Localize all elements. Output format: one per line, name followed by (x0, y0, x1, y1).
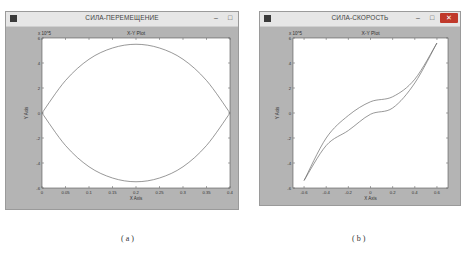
chart: X-Y Plotx 10^5-0.6-0.4-0.200.20.40.6-6-4… (275, 30, 448, 201)
x-tick-label: 0.25 (155, 190, 164, 195)
caption-b: ( b ) (352, 234, 365, 243)
x-tick-label: 0.15 (108, 190, 117, 195)
y-tick-label: 6 (289, 36, 292, 41)
title-bar[interactable]: СИЛА-СКОРОСТЬ – □ ✕ (260, 12, 460, 27)
caption-a: ( a ) (121, 234, 134, 243)
figure-window-b: СИЛА-СКОРОСТЬ – □ ✕ X-Y Plotx 10^5-0.6-0… (259, 11, 461, 206)
y-tick-label: 2 (289, 86, 292, 91)
y-tick-label: -6 (287, 186, 291, 191)
y-tick-label: -4 (287, 161, 291, 166)
minimize-button[interactable]: – (210, 13, 222, 23)
y-tick-label: 4 (38, 61, 41, 66)
y-tick-label: 0 (38, 111, 41, 116)
minimize-button[interactable]: – (412, 13, 424, 23)
y-tick-label: 2 (38, 86, 41, 91)
x-tick-label: -0.2 (345, 190, 353, 195)
x-tick-label: 0.6 (434, 190, 440, 195)
x-tick-label: 0.4 (412, 190, 418, 195)
close-button[interactable]: ✕ (440, 13, 458, 23)
x-tick-label: 0.05 (61, 190, 70, 195)
x-tick-label: 0.35 (202, 190, 211, 195)
x-axis-label: X Axis (130, 196, 143, 201)
title-bar[interactable]: СИЛА-ПЕРЕМЕЩЕНИЕ – □ (6, 12, 238, 27)
y-tick-label: 6 (38, 36, 41, 41)
x-tick-label: 0.2 (133, 190, 139, 195)
y-tick-label: 4 (289, 61, 292, 66)
x-tick-label: 0.1 (86, 190, 92, 195)
x-tick-label: 0.3 (180, 190, 186, 195)
chart-title: X-Y Plot (127, 30, 146, 36)
chart: X-Y Plotx 10^500.050.10.150.20.250.30.35… (24, 30, 234, 201)
y-tick-label: -2 (36, 136, 40, 141)
window-title: СИЛА-ПЕРЕМЕЩЕНИЕ (6, 14, 238, 21)
maximize-button[interactable]: □ (426, 13, 438, 23)
y-multiplier: x 10^5 (289, 31, 303, 36)
x-tick-label: 0.4 (227, 190, 233, 195)
x-tick-label: -0.4 (323, 190, 331, 195)
y-axis-label: Y Axis (275, 106, 280, 119)
maximize-button[interactable]: □ (224, 13, 236, 23)
plot-area: X-Y Plotx 10^5-0.6-0.4-0.200.20.40.6-6-4… (260, 27, 460, 205)
x-tick-label: 0.2 (390, 190, 396, 195)
figure-window-a: СИЛА-ПЕРЕМЕЩЕНИЕ – □ X-Y Plotx 10^500.05… (5, 11, 239, 210)
y-tick-label: -2 (287, 136, 291, 141)
x-tick-label: 0 (369, 190, 372, 195)
x-tick-label: 0 (41, 190, 44, 195)
y-tick-label: 0 (289, 111, 292, 116)
y-axis-label: Y Axis (24, 106, 29, 119)
y-multiplier: x 10^5 (38, 31, 52, 36)
y-tick-label: -4 (36, 161, 40, 166)
x-axis-label: X Axis (364, 196, 377, 201)
chart-title: X-Y Plot (361, 30, 380, 36)
x-tick-label: -0.6 (300, 190, 308, 195)
plot-area: X-Y Plotx 10^500.050.10.150.20.250.30.35… (6, 27, 238, 209)
